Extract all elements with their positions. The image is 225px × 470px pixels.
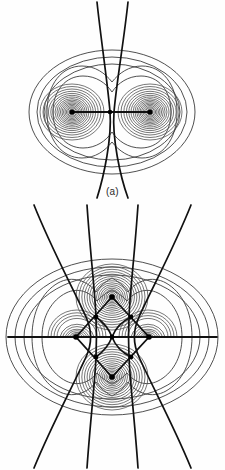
- panel-caption-a: (a): [0, 186, 225, 197]
- ring-critical-point-b: [110, 335, 115, 340]
- nucleus-top-b: [109, 294, 115, 300]
- contour-plot-b: [0, 200, 225, 470]
- bond-critical-point-a: [108, 110, 113, 115]
- contour-plot-a: [0, 0, 225, 200]
- nucleus-left-a: [69, 109, 74, 114]
- bond-critical-point-bottom-left-b: [94, 355, 99, 360]
- bond-critical-point-top-right-b: [129, 315, 134, 320]
- interatomic-surface-a: [97, 2, 128, 198]
- figure-container: (a): [0, 0, 225, 470]
- nucleus-left-b: [73, 334, 79, 340]
- nucleus-bottom-b: [109, 374, 115, 380]
- nucleus-right-b: [146, 334, 152, 340]
- nucleus-right-a: [147, 109, 152, 114]
- panel-b: (b): [0, 200, 225, 470]
- panel-a: (a): [0, 0, 225, 200]
- bond-critical-point-top-left-b: [94, 315, 99, 320]
- bond-critical-point-bottom-right-b: [129, 355, 134, 360]
